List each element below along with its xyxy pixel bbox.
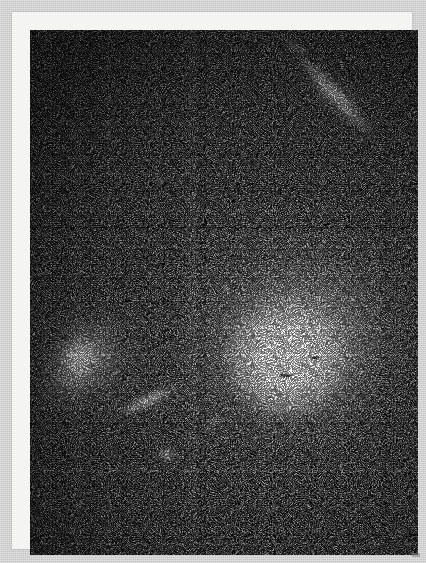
figure-root <box>0 0 426 563</box>
caption-layer <box>0 0 426 563</box>
